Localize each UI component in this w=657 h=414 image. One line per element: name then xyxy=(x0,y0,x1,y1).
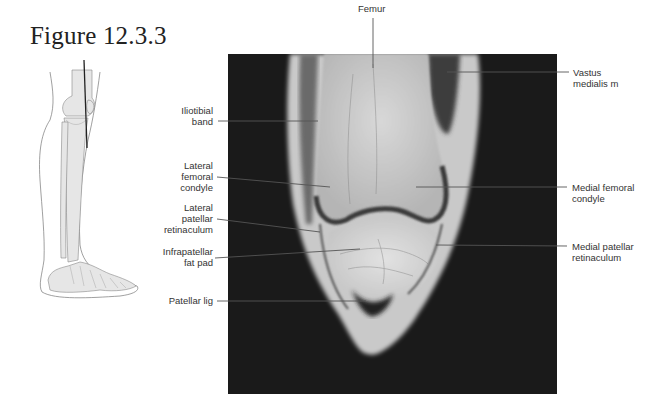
label-patellar-lig: Patellar lig xyxy=(140,295,213,306)
label-lateral-patellar-retinaculum: Lateral patellar retinaculum xyxy=(150,202,213,235)
label-lateral-femoral-condyle: Lateral femoral condyle xyxy=(150,160,213,193)
label-femur: Femur xyxy=(358,3,385,14)
label-medial-femoral-condyle: Medial femoral condyle xyxy=(572,182,634,204)
leg-orientation-illustration xyxy=(0,60,150,310)
label-vastus-medialis: Vastus medialis m xyxy=(573,67,618,89)
label-infrapatellar-fat-pad: Infrapatellar fat pad xyxy=(140,246,213,268)
mri-knee-image xyxy=(228,54,557,394)
label-iliotibial-band: Iliotibial band xyxy=(150,105,213,127)
label-medial-patellar-retinaculum: Medial patellar retinaculum xyxy=(572,241,634,263)
figure-title: Figure 12.3.3 xyxy=(30,22,167,50)
